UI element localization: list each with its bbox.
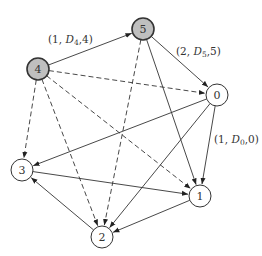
edge-5-to-2 bbox=[104, 40, 141, 225]
node-2: 2 bbox=[91, 226, 113, 248]
node-label: 0 bbox=[214, 89, 221, 102]
edge-1-to-2 bbox=[113, 200, 190, 232]
label-5-0: (2, D5,5) bbox=[176, 45, 221, 59]
node-4: 4 bbox=[27, 58, 49, 80]
node-label: 3 bbox=[19, 164, 26, 177]
edge-3-to-1 bbox=[33, 172, 188, 195]
node-label: 1 bbox=[197, 190, 204, 203]
node-label: 2 bbox=[99, 231, 106, 244]
edge-2-to-3 bbox=[31, 178, 93, 230]
node-label: 4 bbox=[35, 63, 42, 76]
node-0: 0 bbox=[206, 84, 228, 106]
node-5: 5 bbox=[132, 18, 154, 40]
edge-5-to-1 bbox=[147, 39, 197, 184]
node-3: 3 bbox=[11, 159, 33, 181]
edge-4-to-1 bbox=[47, 76, 191, 189]
edges-group bbox=[24, 33, 215, 232]
edge-4-to-3 bbox=[24, 80, 36, 158]
label-0-1: (1, D0,0) bbox=[214, 133, 259, 147]
node-1: 1 bbox=[189, 185, 211, 207]
graph-svg: 012345 (1, D4,4)(2, D5,5)(1, D0,0) bbox=[0, 0, 262, 256]
node-label: 5 bbox=[140, 23, 147, 36]
edge-4-to-0 bbox=[49, 71, 205, 94]
edge-4-to-2 bbox=[42, 79, 98, 226]
edge-0-to-3 bbox=[33, 99, 207, 166]
edge-0-to-1 bbox=[202, 106, 215, 184]
graph-diagram: 012345 (1, D4,4)(2, D5,5)(1, D0,0) bbox=[0, 0, 262, 256]
label-4-5: (1, D4,4) bbox=[48, 33, 93, 47]
